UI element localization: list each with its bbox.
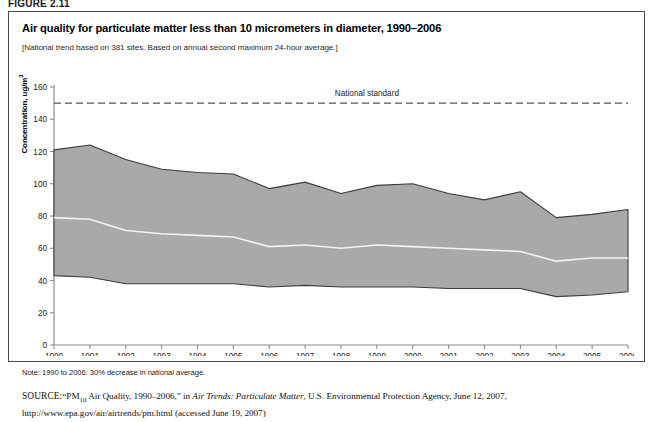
source-prefix: SOURCE: xyxy=(22,391,62,401)
svg-text:1992: 1992 xyxy=(117,352,136,356)
svg-text:20: 20 xyxy=(38,309,48,318)
svg-text:1994: 1994 xyxy=(188,352,207,356)
svg-text:60: 60 xyxy=(38,244,48,253)
svg-text:2004: 2004 xyxy=(547,352,566,356)
source-italic: Air Trends: Particulate Matter xyxy=(192,391,303,401)
svg-text:1993: 1993 xyxy=(153,352,172,356)
svg-text:140: 140 xyxy=(33,115,47,124)
svg-text:1999: 1999 xyxy=(368,352,387,356)
svg-text:2005: 2005 xyxy=(583,352,602,356)
figure-page: FIGURE 2.11 Air quality for particulate … xyxy=(0,0,657,422)
svg-text:120: 120 xyxy=(33,148,47,157)
svg-text:2003: 2003 xyxy=(511,352,530,356)
svg-text:1990: 1990 xyxy=(45,352,64,356)
svg-text:2006: 2006 xyxy=(619,352,634,356)
svg-text:1997: 1997 xyxy=(296,352,315,356)
source-quote-rest: Air Quality, 1990–2006,” in xyxy=(86,391,192,401)
svg-text:National standard: National standard xyxy=(335,89,400,98)
figure-subtitle: [National trend based on 381 sites. Base… xyxy=(22,43,338,52)
figure-label: FIGURE 2.11 xyxy=(8,0,70,9)
svg-text:40: 40 xyxy=(38,277,48,286)
svg-text:2001: 2001 xyxy=(440,352,459,356)
svg-text:0: 0 xyxy=(42,341,47,350)
svg-text:2000: 2000 xyxy=(404,352,423,356)
svg-text:1995: 1995 xyxy=(224,352,243,356)
source-quote: “PM xyxy=(62,391,79,401)
svg-text:1998: 1998 xyxy=(332,352,351,356)
svg-text:1991: 1991 xyxy=(81,352,100,356)
svg-text:100: 100 xyxy=(33,180,47,189)
area-chart: 0204060801001201401601990199119921993199… xyxy=(22,78,634,356)
figure-source: SOURCE:“PM10 Air Quality, 1990–2006,” in… xyxy=(22,390,648,420)
svg-text:1996: 1996 xyxy=(260,352,279,356)
figure-title: Air quality for particulate matter less … xyxy=(22,22,441,34)
svg-text:160: 160 xyxy=(33,83,47,92)
figure-note: Note: 1990 to 2006: 30% decrease in nati… xyxy=(22,368,205,377)
plot-area: Concentration, ug/m3 0204060801001201401… xyxy=(22,78,634,356)
svg-text:2002: 2002 xyxy=(475,352,494,356)
svg-text:80: 80 xyxy=(38,212,48,221)
